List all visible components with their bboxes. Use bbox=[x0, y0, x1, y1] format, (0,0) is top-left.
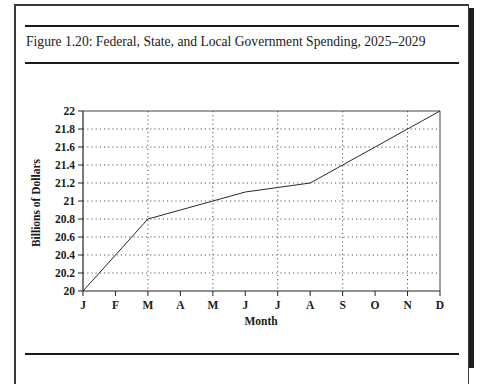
x-tick-label: M bbox=[207, 299, 218, 311]
y-tick-label: 21.6 bbox=[55, 141, 75, 153]
chart-grid bbox=[83, 111, 440, 291]
y-tick-label: 21.8 bbox=[55, 123, 75, 135]
y-tick-label: 21.4 bbox=[55, 159, 75, 171]
y-axis-ticks: 2020.220.420.620.82121.221.421.621.822 bbox=[55, 105, 83, 297]
x-tick-label: D bbox=[436, 299, 444, 311]
y-tick-label: 22 bbox=[64, 105, 76, 117]
y-tick-label: 20 bbox=[64, 285, 76, 297]
y-tick-label: 20.8 bbox=[55, 213, 75, 225]
y-tick-label: 21 bbox=[64, 195, 76, 207]
x-tick-label: J bbox=[80, 299, 86, 311]
x-tick-label: J bbox=[242, 299, 248, 311]
y-tick-label: 20.2 bbox=[55, 267, 75, 279]
x-tick-label: F bbox=[112, 299, 119, 311]
y-tick-label: 20.6 bbox=[55, 231, 75, 243]
y-tick-label: 20.4 bbox=[55, 249, 75, 261]
x-tick-label: A bbox=[176, 299, 185, 311]
y-axis-title: Billions of Dollars bbox=[30, 158, 42, 247]
x-tick-label: O bbox=[371, 299, 380, 311]
x-tick-label: J bbox=[275, 299, 281, 311]
x-tick-label: N bbox=[403, 299, 412, 311]
x-tick-label: S bbox=[339, 299, 345, 311]
x-axis-title: Month bbox=[244, 315, 278, 327]
x-axis-ticks: JFMAMJJASOND bbox=[80, 291, 444, 311]
x-tick-label: A bbox=[306, 299, 315, 311]
y-tick-label: 21.2 bbox=[55, 177, 75, 189]
x-tick-label: M bbox=[142, 299, 153, 311]
